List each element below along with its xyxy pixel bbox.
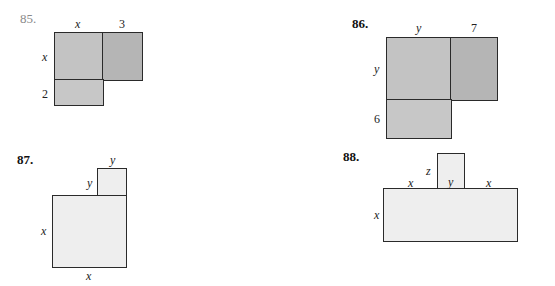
label-small-side: z [426, 165, 431, 177]
label-small-top: y [110, 154, 115, 166]
label-small-bottom: y [448, 176, 453, 188]
figure-number-88: 88. [343, 149, 359, 165]
label-top-left: y [416, 22, 421, 34]
label-top-right: x [486, 177, 491, 189]
big-square-x-by-x [52, 195, 127, 268]
label-side-top: x [42, 51, 47, 63]
label-side-top: y [374, 63, 379, 75]
rect-x-by-2 [54, 79, 104, 106]
label-top-left: x [408, 177, 413, 189]
square-y-by-y [386, 37, 452, 101]
small-square-y-by-y [97, 168, 127, 197]
label-small-side: y [87, 177, 92, 189]
label-top-right: 7 [471, 22, 477, 34]
figure-number-85: 85. [20, 11, 36, 27]
rect-7-by-y [450, 37, 498, 101]
rect-3-by-x [102, 32, 143, 81]
figure-number-87: 87. [17, 152, 33, 168]
label-side-bottom: 2 [42, 88, 48, 100]
big-rect [383, 188, 518, 242]
square-x-by-x [54, 32, 104, 81]
rect-y-by-6 [386, 99, 452, 139]
label-top-right: 3 [119, 18, 125, 30]
label-big-bottom: x [86, 270, 91, 282]
label-top-left: x [75, 18, 80, 30]
figure-number-86: 86. [352, 16, 368, 32]
label-big-side: x [41, 225, 46, 237]
label-side-bottom: 6 [374, 113, 380, 125]
label-big-side: x [374, 209, 379, 221]
